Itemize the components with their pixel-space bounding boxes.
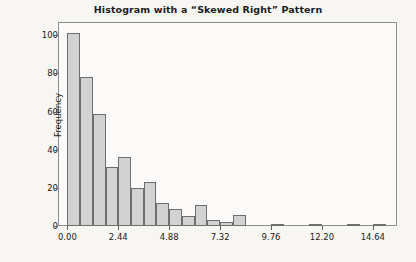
histogram-bar xyxy=(93,114,106,226)
x-tick-mark xyxy=(322,226,323,230)
x-tick-label: 2.44 xyxy=(98,232,138,242)
y-tick-mark xyxy=(54,35,58,36)
histogram-bar xyxy=(106,167,119,226)
x-tick-mark xyxy=(373,226,374,230)
y-tick-mark xyxy=(54,112,58,113)
x-tick-mark xyxy=(169,226,170,230)
y-tick-group: 020406080100 xyxy=(30,22,58,226)
x-tick-group: 0.002.444.887.329.7612.2014.64 xyxy=(58,226,397,246)
histogram-bar xyxy=(144,182,157,226)
histogram-bar xyxy=(233,215,246,226)
x-tick-label: 14.64 xyxy=(353,232,393,242)
histogram-bar xyxy=(80,77,93,226)
x-tick-label: 7.32 xyxy=(200,232,240,242)
x-tick-mark xyxy=(67,226,68,230)
chart-title: Histogram with a “Skewed Right” Pattern xyxy=(0,4,416,15)
y-tick-mark xyxy=(54,150,58,151)
x-tick-label: 9.76 xyxy=(251,232,291,242)
histogram-bar xyxy=(131,188,144,226)
x-tick-mark xyxy=(271,226,272,230)
x-tick-mark xyxy=(118,226,119,230)
histogram-bar xyxy=(67,33,80,226)
plot-area xyxy=(58,22,397,226)
histogram-bar xyxy=(169,209,182,226)
y-tick-mark xyxy=(54,73,58,74)
histogram-bar xyxy=(195,205,208,226)
x-tick-label: 4.88 xyxy=(149,232,189,242)
histogram-bar xyxy=(182,216,195,226)
x-tick-label: 0.00 xyxy=(47,232,87,242)
histogram-figure: Histogram with a “Skewed Right” Pattern … xyxy=(0,0,416,262)
y-tick-mark xyxy=(54,188,58,189)
histogram-bar xyxy=(118,157,131,226)
x-tick-mark xyxy=(220,226,221,230)
x-tick-label: 12.20 xyxy=(302,232,342,242)
y-axis: Frequency 020406080100 xyxy=(30,22,58,226)
x-axis: 0.002.444.887.329.7612.2014.64 xyxy=(58,226,397,246)
histogram-bar xyxy=(156,203,169,226)
